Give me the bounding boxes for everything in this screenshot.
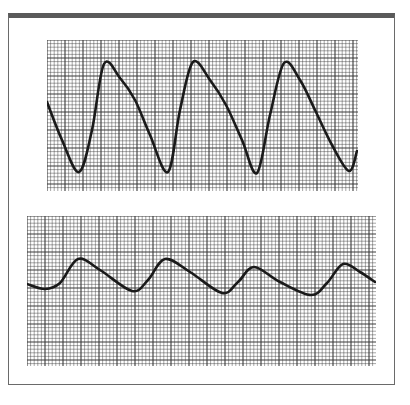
bottom-tracing-panel <box>27 216 376 366</box>
top-tracing-chart <box>47 40 358 191</box>
waveform-trace <box>27 259 375 295</box>
bottom-tracing-chart <box>27 216 376 366</box>
top-tracing-panel <box>47 40 358 191</box>
